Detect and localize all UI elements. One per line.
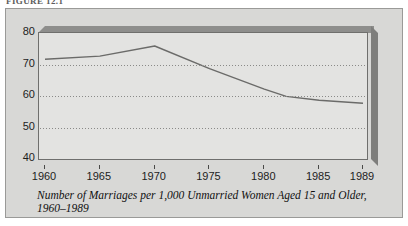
x-tick-label-1960: 1960	[32, 170, 56, 182]
x-tick-1970	[154, 165, 155, 169]
plot-face	[38, 32, 368, 160]
y-tick-label-70: 70	[23, 57, 35, 69]
y-tick-label-60: 60	[23, 88, 35, 100]
x-tick-1985	[318, 165, 319, 169]
x-tick-label-1989: 1989	[350, 170, 374, 182]
y-tick-label-50: 50	[23, 120, 35, 132]
x-tick-1975	[208, 165, 209, 169]
figure-label: FIGURE 12.1	[6, 0, 63, 5]
gridline-y-70	[40, 65, 366, 66]
caption-line-1: Number of Marriages per 1,000 Unmarried …	[37, 189, 397, 202]
series-line-marriage-rate	[40, 34, 368, 160]
figure-caption: Number of Marriages per 1,000 Unmarried …	[37, 189, 397, 215]
gridline-y-50	[40, 128, 366, 129]
x-tick-label-1970: 1970	[141, 170, 165, 182]
plot-side-bevel	[371, 26, 378, 166]
caption-line-2: 1960–1989	[37, 202, 397, 215]
y-tick-label-80: 80	[23, 25, 35, 37]
figure-panel: 4050607080 1960196519701975198019851989 …	[5, 8, 403, 218]
x-tick-label-1975: 1975	[196, 170, 220, 182]
x-tick-1989	[362, 165, 363, 169]
figure-container: FIGURE 12.1 4050607080 19601965197019751…	[0, 0, 408, 226]
x-tick-label-1980: 1980	[251, 170, 275, 182]
x-tick-1965	[99, 165, 100, 169]
x-tick-1980	[263, 165, 264, 169]
x-axis-labels: 1960196519701975198019851989	[38, 169, 383, 185]
x-tick-label-1985: 1985	[306, 170, 330, 182]
gridline-y-60	[40, 96, 366, 97]
x-tick-label-1965: 1965	[87, 170, 111, 182]
y-axis-labels: 4050607080	[6, 26, 35, 166]
x-tick-1960	[44, 165, 45, 169]
plot-area	[38, 26, 378, 166]
y-tick-label-40: 40	[23, 151, 35, 163]
